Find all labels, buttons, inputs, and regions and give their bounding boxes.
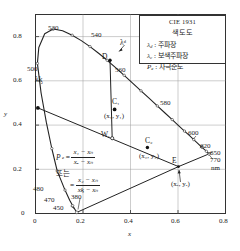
- point-lambda-c: [36, 106, 40, 110]
- formula-lhs-symbol: P: [56, 153, 61, 162]
- legend-row-lambda-c: λc : 보색주파장: [140, 50, 225, 60]
- legend-row-pe: Pe : 자극순도: [140, 61, 225, 71]
- y-tick-0: 0: [21, 210, 25, 217]
- point-label-D: D: [102, 53, 107, 61]
- x-tick-0.8: 0.8: [219, 218, 228, 225]
- point-label-lambda-d: λᵈ: [120, 39, 126, 47]
- y-axis-title: y: [4, 111, 7, 118]
- wl-label-480: 480: [33, 186, 44, 193]
- wl-label-560: 560: [115, 67, 126, 74]
- x-tick-0.4: 0.4: [124, 218, 133, 225]
- legend-sub-lambda-d: d: [150, 44, 152, 49]
- formula-equals-1: =: [66, 153, 70, 162]
- coord-label-C1: (x₁, y₁): [104, 113, 124, 120]
- formula-lhs-sub: e: [62, 155, 64, 160]
- x-tick-0: 0: [33, 218, 37, 225]
- legend-sub-pe: e: [151, 66, 153, 71]
- legend-text-lambda-c: 보색주파장: [158, 52, 188, 60]
- x-tick-0.2: 0.2: [76, 218, 85, 225]
- cie-1931-chromaticity-figure: 0 0.2 0.4 0.6 0.8 y 0 0.2 0.4 0.6 0.8 x …: [0, 0, 240, 251]
- wl-label-520: 520: [48, 25, 59, 32]
- y-tick-0.6: 0.6: [13, 77, 22, 84]
- legend-row-lambda-d: λd : 주파장: [140, 39, 225, 49]
- formula-fraction-1: x₁ − xₙ xₔ − xₙ: [71, 148, 95, 166]
- wl-label-770: 770: [210, 157, 221, 164]
- x-tick-0.6: 0.6: [171, 218, 180, 225]
- formula-denominator-1: xₔ − xₙ: [71, 158, 95, 167]
- purity-formula: Pe = x₁ − xₙ xₔ − xₙ 또는 = x₂ − xₙ xᶄ − x…: [56, 148, 100, 194]
- point-label-E: E: [172, 157, 177, 165]
- wl-label-450: 450: [53, 205, 64, 212]
- formula-numerator-1: x₁ − xₙ: [71, 148, 95, 158]
- point-E: [177, 165, 180, 168]
- legend-text-pe: 자극순도: [159, 63, 183, 71]
- formula-line-1: Pe = x₁ − xₙ xₔ − xₙ: [56, 148, 100, 166]
- wl-label-580: 580: [160, 100, 171, 107]
- wl-label-500: 500: [27, 66, 38, 73]
- wl-label-540: 540: [91, 32, 102, 39]
- legend-title: CIE 1931: [140, 18, 225, 25]
- formula-line-2: = x₂ − xₙ xᶄ − xₙ: [70, 176, 100, 194]
- wl-label-470: 470: [44, 197, 55, 204]
- formula-equals-2: =: [70, 181, 74, 190]
- point-C1: [113, 108, 117, 112]
- point-C2: [146, 146, 149, 149]
- point-label-C1: C₁: [112, 98, 120, 106]
- y-tick-0.8: 0.8: [13, 33, 22, 40]
- coord-label-C2: (x₂, y₂): [139, 153, 159, 160]
- formula-fraction-2: x₂ − xₙ xᶄ − xₙ: [76, 176, 101, 194]
- wl-label-380: 380: [71, 194, 82, 201]
- point-D: [108, 59, 111, 62]
- coord-label-E: (xₑ, yₑ): [171, 181, 190, 188]
- x-axis-title: x: [128, 231, 131, 238]
- wl-label-600: 600: [188, 130, 199, 137]
- unit-label-nm: nm: [211, 165, 220, 172]
- legend-text-lambda-d: 주파장: [158, 41, 176, 49]
- point-We: [111, 137, 114, 140]
- legend-subtitle: 색도도: [140, 27, 225, 37]
- formula-denominator-2: xᶄ − xₙ: [76, 186, 101, 195]
- point-label-We: Wₑ: [101, 131, 110, 139]
- point-label-lambda-c: λᶄ: [35, 76, 42, 84]
- legend-box: CIE 1931 색도도 λd : 주파장 λc : 보색주파장 Pe : 자극…: [139, 15, 226, 64]
- wl-label-620: 620: [200, 143, 211, 150]
- formula-numerator-2: x₂ − xₙ: [76, 176, 101, 186]
- legend-sub-lambda-c: c: [150, 55, 152, 60]
- legend-sep-2: :: [155, 63, 157, 71]
- legend-sep-1: :: [154, 52, 156, 60]
- legend-sep-0: :: [154, 41, 156, 49]
- y-tick-0.4: 0.4: [13, 121, 22, 128]
- point-label-C2: C₂: [145, 137, 153, 145]
- y-tick-0.2: 0.2: [13, 166, 22, 173]
